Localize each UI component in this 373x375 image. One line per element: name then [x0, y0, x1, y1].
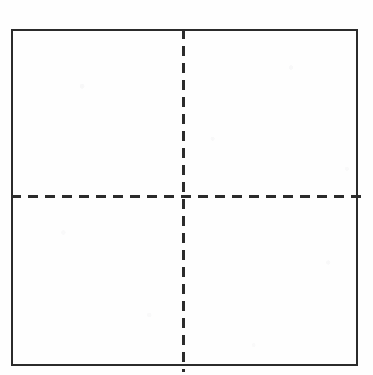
- top-left-quadrant: [12, 30, 183, 196]
- bottom-right-quadrant: [185, 198, 357, 365]
- diagram-canvas: [0, 0, 373, 375]
- top-right-quadrant: [185, 30, 357, 196]
- bottom-left-quadrant: [12, 198, 183, 365]
- quadrant-diagram: [0, 0, 373, 375]
